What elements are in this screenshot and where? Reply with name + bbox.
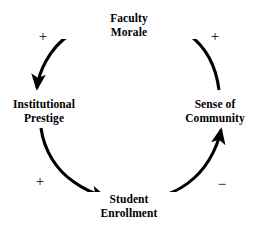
polarity-sign-bottom-right: − [215, 177, 229, 192]
node-institutional-prestige-line2: Prestige [0, 111, 88, 125]
node-student-enrollment: Student Enrollment [0, 192, 258, 220]
node-sense-of-community: Sense of Community [172, 97, 258, 125]
node-student-enrollment-line1: Student [0, 192, 258, 206]
node-faculty-morale-line1: Faculty [0, 11, 258, 25]
node-sense-of-community-line2: Community [172, 111, 258, 125]
causal-loop-diagram: Faculty Morale Institutional Prestige Se… [0, 0, 258, 225]
polarity-sign-bottom-left: + [33, 174, 47, 189]
node-institutional-prestige-line1: Institutional [0, 97, 88, 111]
arrow-institutional-prestige-to-student-enrollment [41, 128, 105, 197]
node-sense-of-community-line1: Sense of [172, 97, 258, 111]
polarity-sign-top-left: + [36, 29, 50, 44]
node-institutional-prestige: Institutional Prestige [0, 97, 88, 125]
arrow-student-enrollment-to-sense-of-community [158, 130, 221, 197]
polarity-sign-top-right: + [208, 29, 222, 44]
node-student-enrollment-line2: Enrollment [0, 206, 258, 220]
